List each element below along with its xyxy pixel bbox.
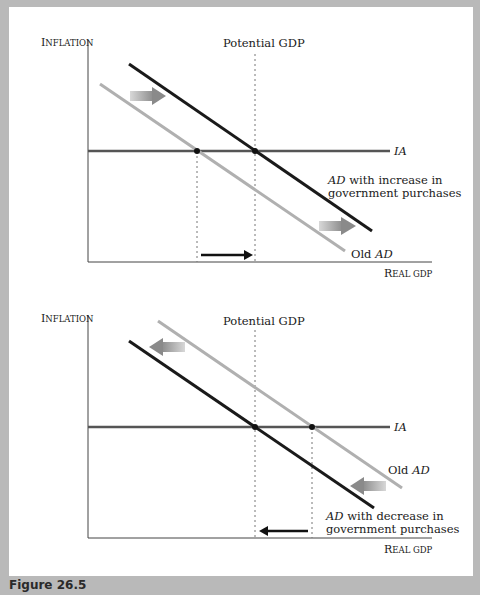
top-old-equilibrium-dot	[194, 148, 200, 154]
bottom-y-axis-label: INFLATION	[41, 312, 94, 325]
bottom-ia-label: IA	[393, 420, 407, 434]
top-output-change-arrow-icon	[201, 250, 253, 260]
top-old-ad-line	[100, 84, 345, 251]
top-new-ad-label-line2: government purchases	[328, 186, 462, 200]
top-x-axis-label: REAL GDP	[384, 267, 433, 280]
bottom-old-equilibrium-dot	[309, 424, 315, 430]
figure-svg: INFLATION Potential GDP IA AD with incre…	[0, 0, 480, 595]
top-potential-gdp-label: Potential GDP	[223, 36, 305, 50]
bottom-shift-arrow-lower-icon	[350, 477, 386, 495]
top-new-equilibrium-dot	[252, 148, 258, 154]
top-new-ad-label: AD with increase in	[327, 173, 443, 187]
bottom-chart: INFLATION Potential GDP IA Old AD AD wit…	[41, 312, 460, 556]
top-shift-arrow-upper-icon	[130, 87, 166, 105]
bottom-new-ad-line	[129, 341, 374, 508]
bottom-new-ad-label-line2: government purchases	[326, 522, 460, 536]
figure-caption: Figure 26.5	[9, 578, 86, 592]
bottom-shift-arrow-upper-icon	[149, 338, 185, 356]
bottom-new-equilibrium-dot	[252, 424, 258, 430]
bottom-old-ad-label: Old AD	[388, 463, 430, 477]
top-new-ad-line	[129, 64, 372, 231]
top-shift-arrow-lower-icon	[319, 217, 356, 235]
bottom-new-ad-label: AD with decrease in	[325, 509, 444, 523]
top-old-ad-label: Old AD	[351, 247, 393, 261]
bottom-potential-gdp-label: Potential GDP	[223, 314, 305, 328]
top-chart: INFLATION Potential GDP IA AD with incre…	[41, 36, 462, 280]
bottom-old-ad-line	[158, 321, 402, 488]
bottom-x-axis-label: REAL GDP	[384, 543, 433, 556]
bottom-output-change-arrow-icon	[259, 526, 308, 536]
top-ia-label: IA	[393, 144, 407, 158]
top-y-axis-label: INFLATION	[41, 36, 94, 49]
